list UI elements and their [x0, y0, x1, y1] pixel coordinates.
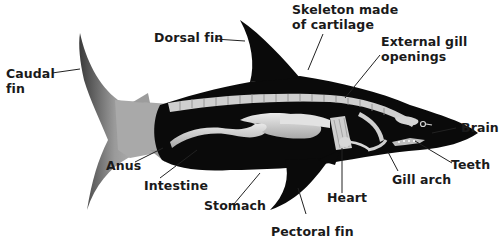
label-stomach-text: Stomach [204, 198, 266, 213]
label-caudal-fin: Caudal fin [6, 66, 55, 96]
label-dorsal-fin: Dorsal fin [154, 30, 223, 45]
label-stomach: Stomach [204, 198, 266, 213]
label-brain-text: Brain [461, 120, 499, 135]
heart-shape [339, 137, 351, 147]
label-intestine: Intestine [144, 178, 208, 193]
label-brain: Brain [461, 120, 499, 135]
label-dorsal-fin-text: Dorsal fin [154, 30, 223, 45]
label-gill-arch-text: Gill arch [392, 172, 451, 187]
label-heart: Heart [327, 190, 367, 205]
label-intestine-text: Intestine [144, 178, 208, 193]
label-pectoral-fin-text: Pectoral fin [271, 224, 354, 239]
label-gill-arch: Gill arch [392, 172, 451, 187]
label-pectoral-fin: Pectoral fin [271, 224, 354, 239]
label-gill-openings-line1: External gill [381, 34, 467, 49]
label-heart-text: Heart [327, 190, 367, 205]
dorsal-fin-shape [240, 20, 300, 82]
label-external-gill-openings: External gill openings [381, 34, 467, 64]
label-caudal-fin-line2: fin [6, 81, 55, 96]
label-skeleton-line2: of cartilage [292, 17, 398, 32]
label-teeth: Teeth [451, 157, 490, 172]
label-teeth-text: Teeth [451, 157, 490, 172]
label-skeleton: Skeleton made of cartilage [292, 2, 398, 32]
label-caudal-fin-line1: Caudal [6, 66, 55, 81]
label-skeleton-line1: Skeleton made [292, 2, 398, 17]
label-anus: Anus [106, 158, 141, 173]
label-anus-text: Anus [106, 158, 141, 173]
label-gill-openings-line2: openings [381, 49, 467, 64]
